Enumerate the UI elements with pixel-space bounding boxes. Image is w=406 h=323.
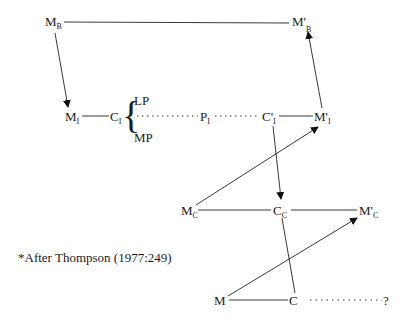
edge-mb-mbprime xyxy=(64,22,289,23)
node-mc: MC xyxy=(181,204,198,222)
node-mi-prime: M'I xyxy=(314,110,331,128)
footnote-citation: *After Thompson (1977:249) xyxy=(18,251,172,265)
node-mi: MI xyxy=(65,110,79,128)
node-cc: CC xyxy=(273,204,287,222)
node-pi: PI xyxy=(200,110,210,128)
arrow-m-to-mcprime xyxy=(228,218,357,296)
node-ci: CI xyxy=(110,110,121,128)
node-c: C xyxy=(289,294,298,307)
arrow-miprime-to-mbprime xyxy=(308,32,322,108)
node-lp: LP xyxy=(134,94,149,107)
edge-cc-c xyxy=(282,218,295,293)
node-mp: MP xyxy=(134,131,153,144)
arrow-mb-to-mi xyxy=(55,33,68,107)
node-m: M xyxy=(214,294,226,307)
arrow-mc-to-miprime xyxy=(196,127,318,205)
node-ci-prime: C'I xyxy=(262,110,276,128)
node-mb: MB xyxy=(45,15,62,33)
node-mc-prime: M'C xyxy=(359,204,378,222)
node-mb-prime: M'B xyxy=(292,15,311,36)
node-unknown: ? xyxy=(383,294,389,307)
diagram-edges xyxy=(0,0,406,323)
arrow-ciprime-to-cc xyxy=(273,126,281,199)
